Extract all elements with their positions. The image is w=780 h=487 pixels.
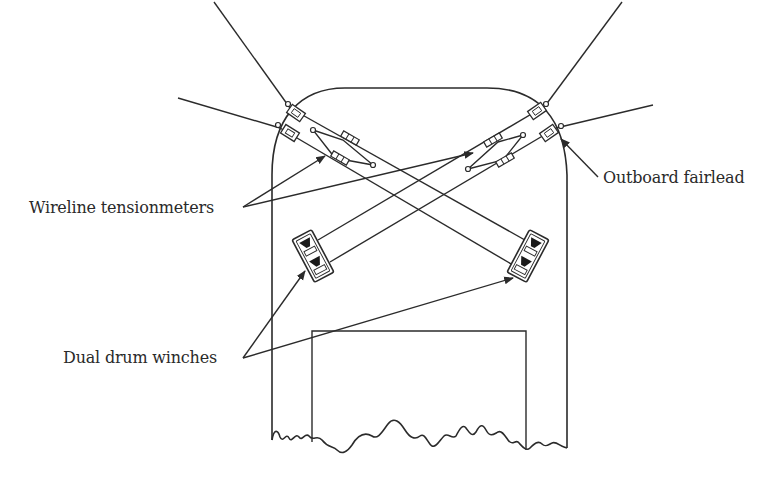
deckhouse — [312, 331, 526, 450]
leader-dual-drum-winches — [243, 271, 513, 358]
fairlead-port-aft — [281, 125, 300, 142]
winch-port — [292, 230, 334, 283]
label-wireline-tensionmeters: Wireline tensionmeters — [29, 200, 214, 216]
diagram-canvas: Outboard fairlead Wireline tensionmeters… — [0, 0, 780, 487]
winch-stbd — [507, 230, 549, 283]
tensionmeter-port — [311, 128, 376, 168]
mooring-lines — [178, 2, 653, 268]
leader-wireline-tensionmeters — [243, 153, 473, 207]
fairlead-stbd-aft — [540, 124, 559, 141]
label-outboard-fairlead: Outboard fairlead — [603, 170, 744, 186]
label-dual-drum-winches: Dual drum winches — [63, 350, 217, 366]
mooring-arrangement-diagram — [0, 0, 780, 487]
